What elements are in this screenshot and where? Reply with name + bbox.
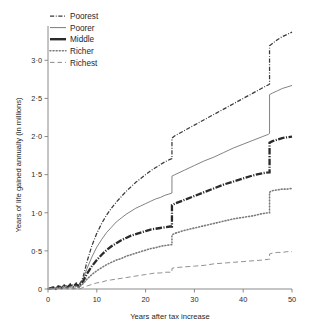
x-tick-label: 10 (93, 295, 101, 304)
x-tick-label: 20 (141, 295, 149, 304)
series-line-poorest (48, 32, 292, 289)
y-tick-label: 1·5 (31, 170, 42, 179)
y-tick-label: 3·0 (31, 56, 42, 65)
y-tick-layer: 00·51·01·52·02·53·0 (31, 56, 48, 294)
y-tick-label: 1·0 (31, 209, 42, 218)
x-tick-label: 0 (46, 295, 50, 304)
x-tick-label: 40 (239, 295, 247, 304)
y-tick-label: 2·0 (31, 132, 42, 141)
x-axis-title: Years after tax increase (130, 312, 210, 321)
legend-label-middle: Middle (70, 35, 95, 44)
y-tick-label: 0 (38, 285, 42, 294)
y-tick-label: 0·5 (31, 247, 42, 256)
legend-label-richer: Richer (70, 47, 94, 56)
x-tick-label: 50 (288, 295, 296, 304)
y-axis-title: Years of life gained annually (in millio… (14, 97, 23, 233)
series-line-poorer (48, 85, 292, 289)
x-tick-layer: 01020304050 (46, 289, 296, 304)
legend-label-poorer: Poorer (70, 24, 95, 33)
legend-label-poorest: Poorest (70, 12, 99, 21)
line-chart: 01020304050 00·51·01·52·02·53·0 Years af… (0, 0, 309, 332)
series-layer (48, 32, 292, 289)
chart-legend: PoorestPoorerMiddleRicherRichest (50, 12, 99, 67)
y-tick-label: 2·5 (31, 94, 42, 103)
x-tick-label: 30 (190, 295, 198, 304)
legend-label-richest: Richest (70, 59, 98, 68)
chart-figure: 01020304050 00·51·01·52·02·53·0 Years af… (0, 0, 309, 332)
